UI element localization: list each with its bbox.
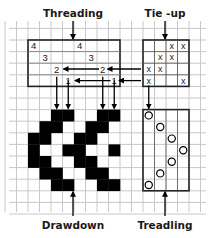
- tieup-mark: x: [181, 76, 186, 86]
- drawdown-cell-filled: [97, 168, 109, 180]
- treadling-mark: [180, 147, 187, 154]
- tieup-mark: x: [181, 41, 186, 51]
- threading-entry: 4: [77, 40, 82, 51]
- treadling-mark: [145, 181, 152, 188]
- drawdown-cell-filled: [74, 133, 86, 145]
- drawdown-cell-filled: [28, 133, 40, 145]
- drawdown-cell-filled: [63, 144, 75, 156]
- tieup-mark: x: [147, 76, 152, 86]
- drawdown-cell-filled: [74, 144, 86, 156]
- treadling-title: Treadling: [137, 219, 192, 231]
- drawdown-cell-filled: [74, 156, 86, 168]
- weaving-draft-diagram: 43214321 xxxxxxxx Threading Tie -up Draw…: [0, 0, 217, 238]
- drawdown-cell-filled: [40, 168, 52, 180]
- tieup-mark: x: [170, 52, 175, 62]
- treadling-mark: [168, 135, 175, 142]
- drawdown-cell-filled: [28, 144, 40, 156]
- threading-entry: 4: [31, 40, 36, 51]
- drawdown-cell-filled: [51, 168, 63, 180]
- threading-entry: 2: [100, 64, 105, 75]
- drawdown-cell-filled: [51, 110, 63, 122]
- drawdown-cell-filled: [109, 179, 121, 191]
- drawdown-cell-filled: [86, 121, 98, 133]
- drawdown-cell-filled: [86, 168, 98, 180]
- drawdown-cell-filled: [109, 110, 121, 122]
- tieup-mark: x: [158, 52, 163, 62]
- drawdown-cell-filled: [40, 121, 52, 133]
- treadling-mark: [157, 123, 164, 130]
- drawdown-cell-filled: [86, 156, 98, 168]
- treadling-mark: [168, 158, 175, 165]
- drawdown-cell-filled: [28, 156, 40, 168]
- threading-entry: 3: [89, 52, 94, 63]
- tieup-mark: x: [158, 64, 163, 74]
- treadling-mark: [157, 170, 164, 177]
- drawdown-cell-filled: [63, 179, 75, 191]
- treadling-mark: [145, 112, 152, 119]
- drawdown-cell-filled: [63, 110, 75, 122]
- drawdown-cell-filled: [40, 156, 52, 168]
- tieup-title: Tie -up: [145, 7, 186, 19]
- drawdown-cell-filled: [51, 179, 63, 191]
- drawdown-cell-filled: [97, 179, 109, 191]
- drawdown-cell-filled: [97, 121, 109, 133]
- tieup-mark: x: [170, 41, 175, 51]
- threading-entry: 2: [54, 64, 59, 75]
- drawdown-cell-filled: [97, 110, 109, 122]
- drawdown-cell-filled: [40, 133, 52, 145]
- threading-title: Threading: [43, 7, 103, 19]
- threading-entry: 3: [43, 52, 48, 63]
- diagram-canvas: 43214321 xxxxxxxx Threading Tie -up Draw…: [0, 0, 217, 238]
- drawdown-cell-filled: [109, 144, 121, 156]
- drawdown-title: Drawdown: [42, 219, 105, 231]
- tieup-mark: x: [147, 64, 152, 74]
- drawdown-cell-filled: [51, 121, 63, 133]
- drawdown-cell-filled: [86, 133, 98, 145]
